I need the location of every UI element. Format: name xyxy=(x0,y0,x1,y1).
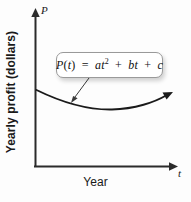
equation-callout: P(t) = at2 + bt + c xyxy=(56,52,163,78)
equation-equals: = xyxy=(81,58,90,72)
equation-plus-2: + xyxy=(143,58,152,72)
x-axis xyxy=(34,162,178,170)
p-axis-variable: P xyxy=(41,5,48,16)
x-axis-title: Year xyxy=(0,175,191,189)
equation-plus-1: + xyxy=(114,58,123,72)
y-axis xyxy=(31,8,39,167)
profit-curve xyxy=(37,90,174,110)
equation-paren-close: ) xyxy=(71,58,75,72)
equation-term3: c xyxy=(157,58,163,72)
quadratic-profit-figure: P t Year Yearly profit (dollars) P(t) = … xyxy=(0,0,191,202)
equation-text: P(t) = at2 + bt + c xyxy=(56,58,163,73)
callout-pointer-arrow xyxy=(71,78,89,103)
y-axis-title: Yearly profit (dollars) xyxy=(4,31,18,153)
equation-function: P xyxy=(56,58,64,72)
figure-graphics xyxy=(0,0,191,202)
